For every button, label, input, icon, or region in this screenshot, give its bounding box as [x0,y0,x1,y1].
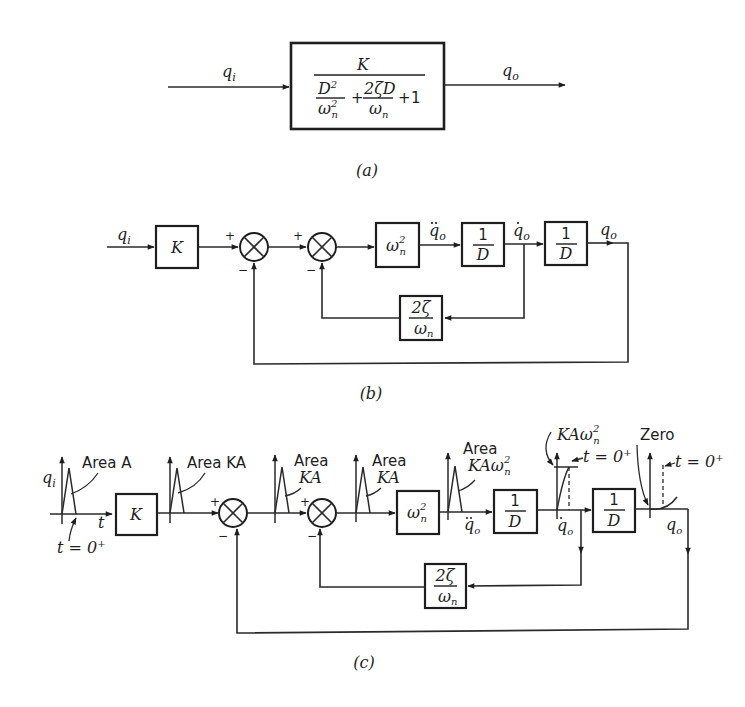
double-dot-1 [431,222,433,224]
double-dot-2 [470,517,472,519]
single-dot [517,222,519,224]
sum1-minus-sign: − [238,263,248,277]
q-dot-label: qo [513,221,530,243]
damping-num: 2ζ [411,298,432,317]
area-kawn2-leader [458,480,475,491]
wn-squared-label: ω2n [407,501,427,524]
damping-num: 2ζ [435,566,456,585]
output-label: qo [502,61,519,83]
summing-junction-2 [308,233,336,261]
sum2-plus-sign: + [293,229,303,243]
sum1-plus-sign: + [225,229,235,243]
inner-feedback-path-out [322,263,400,318]
integrator2-num: 1 [609,491,619,509]
area-a-leader [71,473,98,494]
caption-b: (b) [360,384,383,403]
gain-k-label: K [129,505,143,524]
inner-feedback-path-out [320,529,425,587]
area-ka-label-1: Area KA [187,454,247,472]
area-ka2-line2: KA [298,468,322,487]
sum2-minus-sign: − [306,263,316,277]
pulse-ka-shape [170,468,184,513]
block-diagram-figure: qi K D2 ω2n + 2ζD ωn + 1 qo (a) qi K + − [0,0,745,707]
pulse-ka3-shape [356,467,370,513]
caption-a: (a) [356,161,378,180]
step-height-label: KAω2n [556,423,600,446]
t0-label-step: t = 0+ [583,447,632,466]
t0-step-leader [572,458,583,461]
summing-junction-1 [219,499,247,527]
input-label: qi [117,225,131,247]
input-label: qi [42,468,56,490]
q-dot-label: qo [557,516,573,537]
zero-label: Zero [640,426,675,444]
sum1-minus-sign: − [218,529,228,543]
sum2-plus-sign: + [300,495,310,509]
area-ka-leader-1 [178,473,205,493]
area-ka2-leader [285,488,301,496]
summing-junction-1 [240,233,268,261]
pulse-ka2-shape [275,467,289,513]
pulse-kawn2-shape [448,466,462,512]
panel-a: qi K D2 ω2n + 2ζD ωn + 1 qo (a) [168,43,565,180]
area-ka3-line2: KA [376,468,400,487]
summing-junction-2 [308,499,336,527]
area-ka3-leader [366,488,381,496]
gain-k-label: K [170,238,184,257]
input-pulse-shape [62,468,76,514]
double-dot-2 [435,222,437,224]
integrator2-den: D [607,511,621,530]
input-label: qi [222,62,236,84]
integrator1-den: D [508,512,522,531]
panel-b: qi K + − + − ω2n qo 1 D qo [107,220,628,403]
output-label: qo [600,220,617,242]
tf-den-term1-den: ω2n [318,98,338,120]
integrator2-num: 1 [561,225,571,243]
integrator2-den: D [559,244,573,263]
t0-label-input: t = 0+ [57,538,106,557]
sum2-minus-sign: − [307,529,317,543]
step-rise-curve [557,467,569,510]
step-height-leader [546,432,553,465]
tf-den-term2-num: 2ζD [363,79,396,98]
panel-c: qi Area A t t = 0+ K Area KA + − Area KA [42,423,724,672]
area-kawn2-line2: KAω2n [467,454,511,477]
q-double-dot-label: qo [429,221,446,243]
zero-leader [637,445,648,505]
integrator1-num: 1 [510,492,520,510]
integrator1-num: 1 [478,226,488,244]
tf-den-constant: 1 [411,89,421,107]
tf-plus-2: + [398,89,411,107]
tf-plus-1: + [351,89,364,107]
sum1-plus-sign: + [210,495,220,509]
caption-c: (c) [353,653,374,672]
area-a-label: Area A [82,454,132,472]
inner-feedback-path-in [468,553,581,586]
t0-label-output: t = 0+ [675,452,724,471]
double-dot-1 [466,517,468,519]
time-axis-label: t [98,513,105,532]
output-label: qo [666,515,682,536]
t0-output-leader [665,463,675,466]
integrator1-den: D [476,245,490,264]
single-dot [560,517,562,519]
wn-squared-label: ω2n [386,234,406,257]
tf-numerator: K [356,55,370,74]
